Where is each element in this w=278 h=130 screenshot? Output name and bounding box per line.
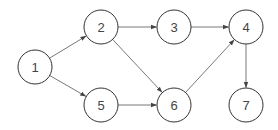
node-4: 4 (229, 10, 263, 44)
node-label: 2 (97, 20, 104, 35)
node-label: 1 (31, 60, 38, 75)
edges-layer (50, 27, 247, 105)
node-1: 1 (18, 50, 52, 84)
edge-1-to-2 (50, 36, 87, 58)
edge-6-to-4 (186, 40, 235, 93)
node-label: 4 (242, 20, 249, 35)
arrow-icon (50, 36, 87, 58)
node-7: 7 (229, 88, 263, 122)
edge-2-to-6 (113, 39, 162, 92)
node-6: 6 (157, 88, 191, 122)
node-2: 2 (84, 10, 118, 44)
arrow-icon (186, 40, 235, 93)
node-label: 6 (170, 98, 177, 113)
graph-canvas: 1234567 (0, 0, 278, 130)
node-label: 7 (242, 98, 249, 113)
arrow-icon (113, 39, 162, 92)
node-3: 3 (157, 10, 191, 44)
edge-1-to-5 (50, 76, 86, 97)
node-label: 3 (170, 20, 177, 35)
node-5: 5 (84, 88, 118, 122)
arrow-icon (50, 76, 86, 97)
node-label: 5 (97, 98, 104, 113)
